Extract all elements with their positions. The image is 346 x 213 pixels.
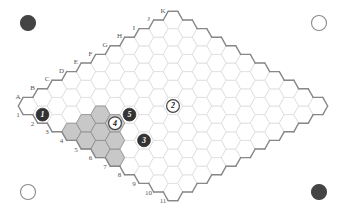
column-label: I	[133, 24, 136, 32]
column-label: B	[30, 84, 35, 92]
row-label: 11	[160, 197, 167, 205]
stone-move-number: 4	[112, 119, 117, 128]
row-label: 5	[74, 146, 78, 154]
bottom-left-white-player-marker-icon	[21, 185, 36, 200]
column-label: J	[147, 15, 150, 23]
column-label: F	[89, 50, 93, 58]
black-stone-C7: 3	[138, 134, 151, 147]
white-stone-F6: 2	[167, 100, 180, 113]
stone-move-number: 5	[128, 110, 132, 119]
column-label: H	[117, 32, 122, 40]
stone-move-number: 3	[141, 136, 146, 145]
row-label: 1	[16, 111, 20, 119]
black-stone-D5: 5	[123, 108, 136, 121]
top-right-white-player-marker-icon	[312, 16, 327, 31]
column-label: G	[102, 41, 107, 49]
row-label: 3	[45, 128, 49, 136]
row-label: 4	[60, 137, 64, 145]
stone-move-number: 2	[170, 101, 175, 110]
stone-move-number: 1	[41, 110, 45, 119]
bottom-right-black-player-marker-icon	[312, 185, 327, 200]
row-label: 10	[145, 189, 153, 197]
top-left-black-player-marker-icon	[21, 16, 36, 31]
column-label: C	[45, 75, 50, 83]
row-label: 8	[118, 171, 122, 179]
column-label: D	[59, 67, 64, 75]
column-label: E	[74, 58, 78, 66]
white-stone-C5: 4	[109, 117, 122, 130]
column-label: A	[15, 93, 20, 101]
black-stone-A2: 1	[36, 108, 49, 121]
row-label: 7	[103, 163, 107, 171]
row-label: 6	[89, 154, 93, 162]
hex-board: ABCDEFGHIJK1234567891011 12345	[0, 0, 346, 213]
row-label: 2	[31, 120, 35, 128]
row-label: 9	[132, 180, 136, 188]
column-label: K	[160, 7, 165, 15]
